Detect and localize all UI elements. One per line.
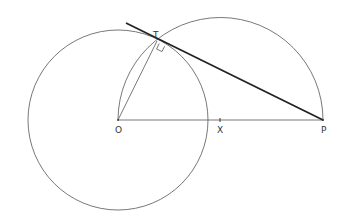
point-o (117, 119, 119, 121)
diagram-canvas: O X P T (0, 0, 344, 221)
point-p (322, 119, 324, 121)
radius-ot (118, 41, 157, 120)
label-o: O (115, 125, 122, 135)
label-p: P (321, 125, 327, 135)
label-t: T (152, 30, 159, 40)
right-angle-marker (157, 44, 165, 52)
label-x: X (217, 125, 223, 135)
